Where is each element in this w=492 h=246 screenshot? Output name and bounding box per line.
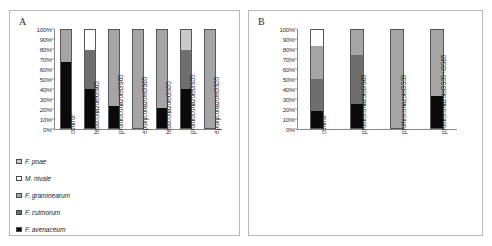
y-axis-tick-mark [51,99,54,100]
legend-item: M. nivale [16,170,70,187]
x-axis-tick-label: prothioconazoleGS55 [189,74,196,134]
panel-a-label: A [19,16,26,27]
y-axis-tick-mark [51,79,54,80]
x-axis-tick-label: epoxyconazoleGS65 [141,77,148,134]
x-axis-tick-label: epoxyconazoleGS55 [213,77,220,134]
stacked-bar [60,29,72,129]
panel-b: B 100%90%80%70%60%50%40%30%20%10%0%contr… [248,10,483,236]
legend-swatch-icon [16,176,22,182]
y-axis-tick-mark [294,99,297,100]
y-axis-tick-mark [51,69,54,70]
panel-b-label: B [258,16,265,27]
legend-item: F. poae [16,153,70,170]
legend-item: F. graminearum [16,187,70,204]
bar-segment [311,46,323,79]
legend-item-label: M. nivale [25,175,51,182]
y-axis-line [54,29,55,129]
y-axis-tick-mark [294,39,297,40]
legend-item-label: F. avenaceum [25,226,65,233]
y-axis-tick-mark [294,49,297,50]
y-axis-tick-mark [294,29,297,30]
y-axis-tick-mark [294,129,297,130]
figure-container: A 100%90%80%70%60%50%40%30%20%10%0%contr… [0,0,492,246]
legend-item-label: F. graminearum [25,192,70,199]
y-axis-tick-mark [51,39,54,40]
y-axis-tick-mark [51,59,54,60]
y-axis-tick-mark [51,119,54,120]
y-axis-tick-mark [51,129,54,130]
legend-item: F. culmorum [16,204,70,221]
x-axis-tick-label: prothioconazoleGS39 [400,74,407,134]
stacked-bar [310,29,324,129]
x-axis-tick-label: control [320,116,327,134]
panel-a: A 100%90%80%70%60%50%40%30%20%10%0%contr… [9,10,240,236]
y-axis-tick-mark [51,109,54,110]
y-axis-tick-mark [294,109,297,110]
x-axis-tick-label: control [69,116,76,134]
plot-area-a: 100%90%80%70%60%50%40%30%20%10%0%control… [54,29,222,129]
legend-swatch-icon [16,227,22,233]
bar-segment [311,79,323,111]
x-axis-tick-label: prothioconazoleGS65 [117,74,124,134]
bar-segment [311,30,323,46]
y-axis-tick-mark [294,79,297,80]
plot-area-b: 100%90%80%70%60%50%40%30%20%10%0%control… [297,29,457,129]
y-axis-tick-mark [51,29,54,30]
legend-item-label: F. poae [25,158,46,165]
bar-segment [85,30,95,50]
legend-swatch-icon [16,193,22,199]
y-axis-tick-mark [51,49,54,50]
y-axis-line [297,29,298,129]
x-axis-tick-label: prothioconazoleGS65 [360,74,367,134]
x-axis-tick-label: prothioconazoleGS39+GS65 [440,55,447,134]
x-axis-line [54,129,222,130]
y-axis-tick-mark [294,89,297,90]
chart-legend: F. poaeM. nivaleF. graminearumF. culmoru… [16,153,70,238]
bar-segment [61,30,71,62]
legend-item-label: F. culmorum [25,209,60,216]
legend-item: F. avenaceum [16,221,70,238]
legend-swatch-icon [16,159,22,165]
legend-swatch-icon [16,210,22,216]
bar-segment [351,30,363,55]
x-axis-tick-label: tebuconazoleGS55 [165,81,172,134]
y-axis-tick-mark [51,89,54,90]
y-axis-tick-mark [294,59,297,60]
y-axis-tick-mark [294,119,297,120]
y-axis-tick-mark [294,69,297,70]
x-axis-tick-label: tebuconazoleGS65 [93,81,100,134]
bar-segment [181,30,191,50]
